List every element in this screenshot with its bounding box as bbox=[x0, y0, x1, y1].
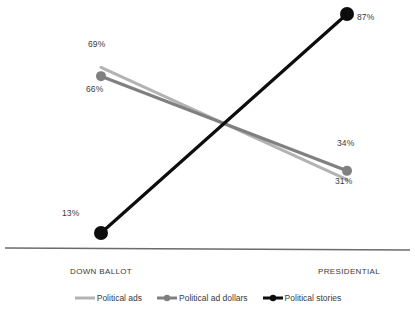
data-point-marker bbox=[96, 71, 106, 81]
x-axis-category-0: DOWN BALLOT bbox=[70, 268, 132, 276]
legend-swatch-icon bbox=[74, 293, 96, 303]
data-point-marker bbox=[340, 7, 354, 21]
line-chart: 69%66%13%87%34%31% DOWN BALLOTPRESIDENTI… bbox=[0, 0, 415, 315]
x-axis-category-1: PRESIDENTIAL bbox=[318, 268, 380, 276]
legend-item-0[interactable]: Political ads bbox=[74, 293, 142, 303]
chart-legend: Political adsPolitical ad dollarsPolitic… bbox=[0, 293, 415, 303]
series-line-2 bbox=[101, 14, 347, 233]
label-ads-down-ballot: 69% bbox=[88, 40, 105, 49]
legend-swatch-icon bbox=[156, 293, 178, 303]
legend-item-2[interactable]: Political stories bbox=[262, 293, 342, 303]
label-dollars-down-ballot: 66% bbox=[86, 85, 103, 94]
legend-label: Political ad dollars bbox=[179, 294, 248, 303]
legend-label: Political stories bbox=[285, 294, 342, 303]
data-point-marker bbox=[342, 166, 352, 176]
series-lines-group bbox=[101, 14, 347, 233]
legend-label: Political ads bbox=[97, 294, 142, 303]
label-dollars-presidential: 34% bbox=[337, 139, 354, 148]
data-point-marker bbox=[94, 226, 108, 240]
label-stories-presidential: 87% bbox=[357, 13, 374, 22]
label-stories-down-ballot: 13% bbox=[62, 209, 79, 218]
legend-swatch-icon bbox=[262, 293, 284, 303]
label-ads-presidential: 31% bbox=[335, 177, 352, 186]
x-axis-line bbox=[5, 248, 410, 250]
legend-item-1[interactable]: Political ad dollars bbox=[156, 293, 248, 303]
